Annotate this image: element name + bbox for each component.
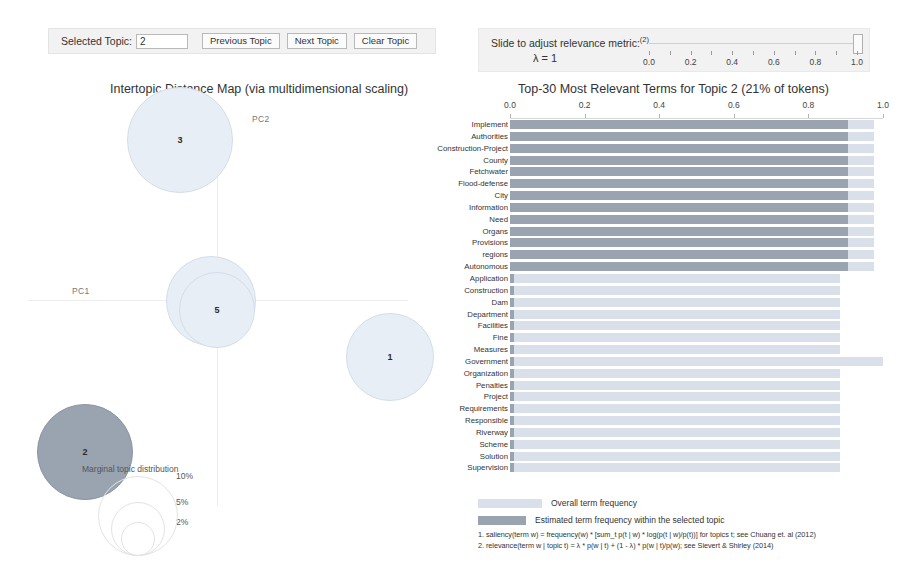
bar-estimated-frequency [510,132,848,141]
bar-chart-x-tick-label: 0.6 [728,100,740,110]
previous-topic-button[interactable]: Previous Topic [202,33,280,49]
bar-term-label: Solution [480,451,508,463]
idm-pc2-axis-label: PC2 [252,114,269,124]
bar-chart-row[interactable]: Organization [412,368,892,380]
topic-size-ring [98,476,178,556]
bar-term-label: Organization [464,368,508,380]
bar-chart-x-tick-label: 0.4 [653,100,665,110]
bar-term-label: Construction-Project [437,143,508,155]
bar-overall-frequency [510,357,883,366]
legend-item-overall: Overall term frequency [478,496,898,510]
bar-chart-row[interactable]: Implement [412,119,892,131]
bar-overall-frequency [510,416,840,425]
bar-chart-row[interactable]: City [412,190,892,202]
idm-pc1-axis-label: PC1 [72,286,89,296]
bar-chart-row[interactable]: Department [412,309,892,321]
bar-overall-frequency [510,392,840,401]
relevance-slider-tick [649,51,650,55]
bar-chart-row[interactable]: Riverway [412,427,892,439]
bar-chart-row[interactable]: Organs [412,226,892,238]
legend-swatch-overall [478,499,542,508]
bar-estimated-frequency [510,274,514,283]
bar-chart-row[interactable]: Requirements [412,403,892,415]
relevance-slider-tick [815,51,816,55]
relevance-slider-track[interactable] [649,43,857,44]
relevance-footnote-marker: (2) [640,35,649,44]
bar-overall-frequency [510,310,840,319]
bar-term-label: Need [489,214,508,226]
chart-footnote-1: 1. saliency(term w) = frequency(w) * [su… [478,530,898,539]
relevance-slider-tick-label: 1.0 [851,57,863,67]
bar-chart-row[interactable]: County [412,155,892,167]
bar-chart-row[interactable]: Information [412,202,892,214]
bar-chart-row[interactable]: Application [412,273,892,285]
bar-chart-x-tick [659,114,660,118]
bar-chart-row[interactable]: Project [412,391,892,403]
bar-estimated-frequency [510,452,514,461]
topic-size-legend-label: 5% [176,497,188,507]
clear-topic-button[interactable]: Clear Topic [354,33,417,49]
bar-estimated-frequency [510,321,514,330]
bar-term-label: Authorities [471,131,508,143]
bar-chart-row[interactable]: Construction-Project [412,143,892,155]
bar-estimated-frequency [510,120,848,129]
bar-chart-row[interactable]: Measures [412,344,892,356]
bar-chart-row[interactable]: Responsible [412,415,892,427]
bar-chart-row[interactable]: regions [412,249,892,261]
bar-chart-row[interactable]: Solution [412,451,892,463]
bar-term-label: Application [470,273,508,285]
bar-chart-row[interactable]: Flood-defense [412,178,892,190]
relevant-terms-bar-chart[interactable]: 0.00.20.40.60.81.0 ImplementAuthoritiesC… [412,100,892,500]
bar-chart-x-tick [510,114,511,118]
bar-chart-x-tick [734,114,735,118]
bar-term-label: Provisions [472,237,508,249]
chart-footnotes: 1. saliency(term w) = frequency(w) * [su… [478,530,898,550]
relevance-slider-tick-label: 0.2 [685,57,697,67]
relevance-slider-tick-label: 0.8 [809,57,821,67]
bar-chart-row[interactable]: Fine [412,332,892,344]
bar-chart-row[interactable]: Dam [412,297,892,309]
bar-chart-row[interactable]: Construction [412,285,892,297]
bar-chart-row[interactable]: Government [412,356,892,368]
bar-overall-frequency [510,321,840,330]
relevance-slider-tick-label: 0.0 [643,57,655,67]
bar-chart-row[interactable]: Scheme [412,439,892,451]
relevance-slider-axis: 0.00.20.40.60.81.0 [649,51,857,69]
bar-overall-frequency [510,286,840,295]
bar-chart-row[interactable]: Provisions [412,237,892,249]
bar-chart-row[interactable]: Penalties [412,380,892,392]
intertopic-distance-map[interactable]: PC2 PC1 34512 Marginal topic distributio… [20,100,420,560]
selected-topic-input[interactable] [136,34,188,49]
bar-chart-row[interactable]: Autonomous [412,261,892,273]
bar-estimated-frequency [510,286,514,295]
bar-term-label: County [483,155,508,167]
bar-term-label: Information [469,202,508,214]
bar-chart-row[interactable]: Need [412,214,892,226]
legend-label-overall: Overall term frequency [551,498,637,508]
bar-estimated-frequency [510,428,514,437]
bar-term-label: Autonomous [464,261,508,273]
bar-chart-row[interactable]: Supervision [412,462,892,474]
relevance-slider-label: Slide to adjust relevance metric:(2) [491,35,649,49]
bar-term-label: Flood-defense [458,178,508,190]
relevance-slider-tick-label: 0.6 [768,57,780,67]
bar-chart-x-tick-label: 0.8 [802,100,814,110]
bar-chart-x-tick-label: 1.0 [877,100,889,110]
bar-overall-frequency [510,428,840,437]
relevance-slider-tick [774,51,775,55]
bar-estimated-frequency [510,191,848,200]
bar-term-label: regions [482,249,508,261]
bar-overall-frequency [510,463,840,472]
next-topic-button[interactable]: Next Topic [287,33,347,49]
relevance-slider-tick-label: 0.4 [726,57,738,67]
bar-term-label: Requirements [459,403,508,415]
bar-chart-row[interactable]: Fetchwater [412,166,892,178]
bar-term-label: Responsible [465,415,508,427]
bar-estimated-frequency [510,203,848,212]
bar-chart-x-tick [808,114,809,118]
bar-chart-row[interactable]: Facilities [412,320,892,332]
bar-estimated-frequency [510,227,848,236]
bar-chart-x-tick [585,114,586,118]
bar-chart-row[interactable]: Authorities [412,131,892,143]
bar-estimated-frequency [510,156,848,165]
